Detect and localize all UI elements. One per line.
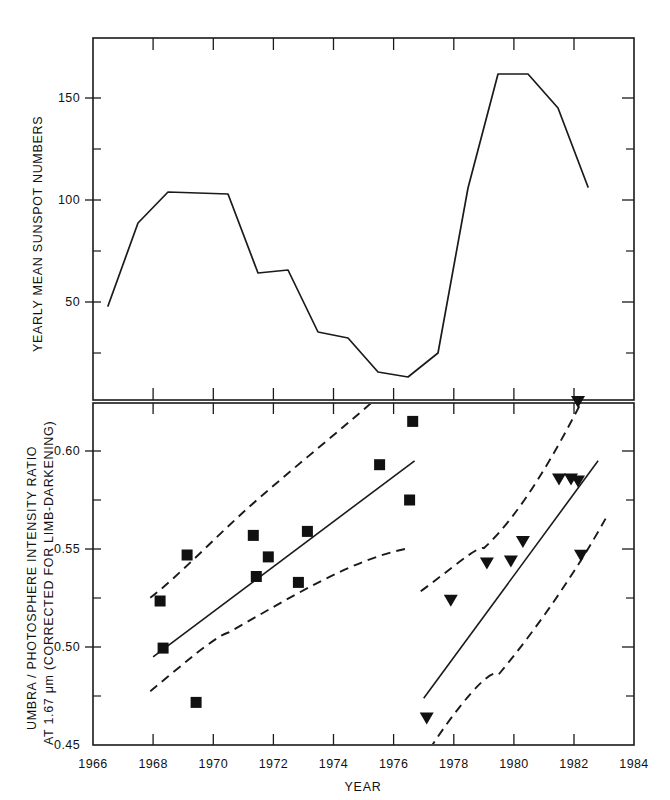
sunspot-bottom-ticks bbox=[153, 388, 574, 400]
data-point-square bbox=[263, 551, 274, 562]
data-point-triangle bbox=[552, 474, 566, 486]
data-point-square bbox=[302, 526, 313, 537]
sunspot-y-ticks-right bbox=[622, 98, 634, 353]
umbra-x-ticks bbox=[153, 734, 574, 745]
sunspot-plot-frame bbox=[93, 38, 634, 400]
umbra-xtick-1970: 1970 bbox=[199, 757, 228, 771]
umbra-y-axis-title-line1: UMBRA / PHOTOSPHERE INTENSITY RATIO bbox=[25, 446, 39, 730]
umbra-xtick-1978: 1978 bbox=[439, 757, 468, 771]
sunspot-number-curve bbox=[108, 74, 588, 377]
data-point-triangle bbox=[504, 556, 518, 568]
umbra-ratio-panel: 0.45 0.50 0.55 0.60 1966 1968 1970 1972 … bbox=[25, 384, 649, 794]
umbra-y-ticks-right bbox=[622, 451, 634, 696]
data-point-square bbox=[251, 571, 262, 582]
data-point-square bbox=[248, 530, 259, 541]
umbra-xtick-1976: 1976 bbox=[379, 757, 408, 771]
umbra-xtick-1984: 1984 bbox=[619, 757, 648, 771]
data-point-triangle bbox=[516, 536, 530, 548]
umbra-ytick-060: 0.60 bbox=[54, 444, 80, 458]
umbra-plot-frame bbox=[93, 403, 634, 745]
umbra-ytick-045: 0.45 bbox=[54, 738, 80, 752]
umbra-x-axis-title: YEAR bbox=[345, 780, 382, 794]
umbra-xtick-1966: 1966 bbox=[78, 757, 107, 771]
umbra-ytick-055: 0.55 bbox=[54, 542, 80, 556]
figure-container: 50 100 150 YEARLY MEAN SUNSPOT NUMBERS bbox=[0, 0, 670, 800]
data-point-triangle bbox=[444, 595, 458, 607]
sunspot-ytick-100: 100 bbox=[58, 193, 80, 207]
sunspot-ytick-50: 50 bbox=[65, 295, 80, 309]
sunspot-y-axis-title: YEARLY MEAN SUNSPOT NUMBERS bbox=[31, 116, 45, 352]
data-point-square bbox=[158, 643, 169, 654]
data-point-triangle-clipped-top bbox=[571, 396, 585, 408]
data-point-square bbox=[182, 550, 193, 561]
data-point-triangle bbox=[420, 713, 434, 725]
umbra-xtick-1980: 1980 bbox=[499, 757, 528, 771]
data-point-square bbox=[407, 416, 418, 427]
cycle20-square-markers bbox=[155, 416, 419, 708]
sunspot-panel: 50 100 150 YEARLY MEAN SUNSPOT NUMBERS bbox=[31, 38, 634, 400]
data-point-square bbox=[374, 459, 385, 470]
sunspot-top-ticks bbox=[153, 38, 574, 50]
data-point-square bbox=[404, 495, 415, 506]
cycle21-upper-confidence-band bbox=[421, 384, 591, 591]
cycle21-regression-line bbox=[424, 461, 598, 699]
sunspot-ytick-150: 150 bbox=[58, 91, 80, 105]
cycle20-lower-confidence-band bbox=[150, 548, 407, 691]
umbra-y-axis-title-line2: AT 1.67 μm (CORRECTED FOR LIMB-DARKENING… bbox=[42, 421, 56, 745]
data-point-square bbox=[293, 577, 304, 588]
data-point-triangle bbox=[574, 550, 588, 562]
umbra-xtick-1968: 1968 bbox=[138, 757, 167, 771]
data-point-square bbox=[155, 596, 166, 607]
umbra-xtick-1974: 1974 bbox=[319, 757, 348, 771]
umbra-ytick-050: 0.50 bbox=[54, 640, 80, 654]
umbra-xtick-1982: 1982 bbox=[559, 757, 588, 771]
umbra-xtick-1972: 1972 bbox=[259, 757, 288, 771]
data-point-square bbox=[191, 697, 202, 708]
data-point-triangle bbox=[480, 558, 494, 570]
two-panel-figure: 50 100 150 YEARLY MEAN SUNSPOT NUMBERS bbox=[0, 0, 670, 800]
